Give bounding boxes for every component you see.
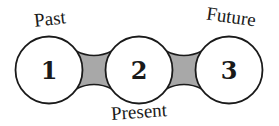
label-future: Future bbox=[205, 3, 257, 31]
timeline-diagram: 1 2 3 Past Present Future bbox=[0, 0, 279, 126]
node-number-2: 2 bbox=[131, 56, 148, 85]
label-past: Past bbox=[33, 6, 67, 30]
label-present: Present bbox=[110, 99, 168, 124]
node-number-1: 1 bbox=[41, 56, 58, 85]
node-number-3: 3 bbox=[221, 56, 238, 85]
